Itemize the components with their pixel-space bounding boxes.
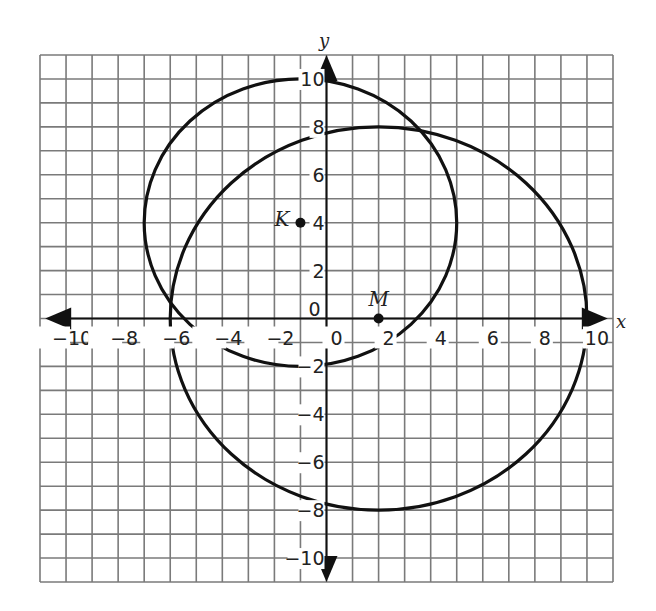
y-axis-title: y <box>318 30 330 51</box>
y-tick-label: −8 <box>296 499 324 521</box>
point-label-k: K <box>273 207 290 231</box>
y-tick-label: 2 <box>312 260 324 282</box>
x-tick-label: −8 <box>110 327 138 349</box>
x-axis-title: x <box>616 311 626 332</box>
point-k <box>295 218 305 228</box>
x-tick-label: 4 <box>435 327 447 349</box>
y-tick-label: −10 <box>284 547 324 569</box>
x-tick-label: −10 <box>52 327 92 349</box>
y-tick-label: 6 <box>312 164 324 186</box>
y-tick-label: 4 <box>312 212 324 234</box>
x-tick-label: 8 <box>539 327 551 349</box>
x-tick-label: 2 <box>383 327 395 349</box>
y-tick-label: −2 <box>296 355 324 377</box>
x-tick-label: −6 <box>162 327 190 349</box>
coordinate-plane: −10−8−6−4−20246810−10−8−6−4−20246810 KM … <box>0 0 656 611</box>
x-tick-label: 6 <box>487 327 499 349</box>
y-tick-label: 10 <box>300 68 324 90</box>
point-m <box>374 314 384 324</box>
x-tick-label: 10 <box>585 327 609 349</box>
x-tick-label: −4 <box>214 327 242 349</box>
x-tick-label: 0 <box>330 327 342 349</box>
y-tick-label: −6 <box>296 451 324 473</box>
point-label-m: M <box>368 287 390 311</box>
points: KM <box>273 207 389 324</box>
x-tick-label: −2 <box>266 327 294 349</box>
y-tick-label: 8 <box>312 116 324 138</box>
y-tick-label: −4 <box>296 403 324 425</box>
y-tick-label: 0 <box>308 298 320 320</box>
